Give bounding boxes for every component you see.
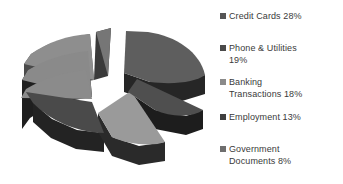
legend-swatch-icon	[220, 45, 226, 51]
legend-item-government-documents[interactable]: Government Documents 8%	[220, 143, 343, 167]
legend-item-employment[interactable]: Employment 13%	[220, 111, 343, 123]
legend-item-credit-cards[interactable]: Credit Cards 28%	[220, 10, 343, 22]
pie-chart-figure: Credit Cards 28% Phone & Utilities 19% B…	[0, 0, 343, 184]
legend-item-banking-transactions[interactable]: Banking Transactions 18%	[220, 76, 343, 100]
legend-swatch-icon	[220, 146, 226, 152]
legend-label-government-documents: Government Documents 8%	[229, 143, 291, 167]
pie-chart-plot	[0, 0, 215, 184]
legend-swatch-icon	[220, 114, 226, 120]
slice-right-upper-top	[124, 31, 205, 83]
chart-legend: Credit Cards 28% Phone & Utilities 19% B…	[220, 0, 343, 184]
legend-label-employment: Employment 13%	[229, 111, 301, 123]
legend-swatch-icon	[220, 79, 226, 85]
pie-chart-svg	[0, 0, 215, 184]
legend-label-banking-transactions: Banking Transactions 18%	[229, 76, 302, 100]
legend-label-phone-utilities: Phone & Utilities 19%	[229, 42, 297, 66]
legend-label-credit-cards: Credit Cards 28%	[229, 10, 302, 22]
legend-item-phone-utilities[interactable]: Phone & Utilities 19%	[220, 42, 343, 66]
legend-swatch-icon	[220, 13, 226, 19]
